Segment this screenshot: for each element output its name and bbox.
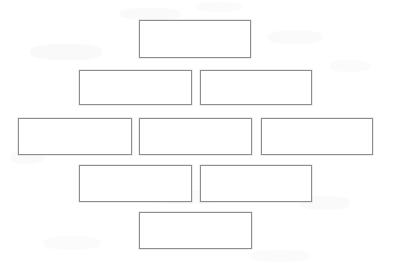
diagram-box[interactable] — [79, 165, 192, 202]
diagram-box[interactable] — [261, 118, 373, 155]
diagram-box-label — [262, 119, 372, 154]
scan-artifact — [250, 250, 310, 262]
diagram-box-label — [140, 21, 250, 57]
diagram-box[interactable] — [200, 165, 312, 202]
scan-artifact — [120, 8, 180, 20]
diagram-box[interactable] — [139, 118, 252, 155]
diagram-box[interactable] — [18, 118, 132, 155]
scan-artifact — [196, 2, 242, 12]
diagram-box-label — [80, 71, 191, 104]
diagram-box[interactable] — [139, 20, 251, 58]
diagram-box[interactable] — [200, 70, 312, 105]
diagram-box-label — [19, 119, 131, 154]
scan-artifact — [268, 30, 322, 44]
scan-artifact — [30, 44, 102, 60]
diagram-box-label — [140, 119, 251, 154]
diagram-box-label — [80, 166, 191, 201]
diagram-box[interactable] — [139, 212, 252, 249]
diagram-box-label — [201, 71, 311, 104]
diagram-box-label — [140, 213, 251, 248]
scan-artifact — [330, 60, 370, 72]
diagram-box[interactable] — [79, 70, 192, 105]
diagram-canvas — [0, 0, 394, 268]
diagram-box-label — [201, 166, 311, 201]
scan-artifact — [44, 236, 100, 250]
